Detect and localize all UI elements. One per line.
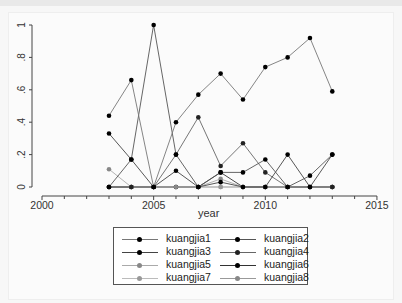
- data-point-marker: [263, 65, 268, 70]
- legend-label: kuangjia6: [264, 258, 309, 270]
- data-point-marker: [285, 152, 290, 157]
- series-line-kuangjia2: [109, 25, 332, 187]
- data-point-marker: [330, 89, 335, 94]
- legend-label: kuangjia5: [166, 258, 211, 270]
- x-tick-label: 2015: [365, 199, 389, 211]
- data-point-marker: [218, 71, 223, 76]
- data-point-marker: [107, 113, 112, 118]
- legend-label: kuangjia8: [264, 271, 309, 283]
- legend-line-icon: [122, 265, 158, 266]
- legend-label: kuangjia3: [166, 245, 211, 257]
- data-point-marker: [218, 185, 223, 190]
- y-tick-label: 1: [16, 22, 27, 28]
- data-point-marker: [129, 185, 134, 190]
- y-tick-label: .2: [16, 150, 27, 159]
- data-point-marker: [263, 157, 268, 162]
- legend-label: kuangjia4: [264, 245, 309, 257]
- data-point-marker: [107, 185, 112, 190]
- data-point-marker: [174, 152, 179, 157]
- data-point-marker: [107, 167, 112, 172]
- legend-line-icon: [220, 278, 256, 279]
- data-point-marker: [285, 55, 290, 60]
- data-point-marker: [241, 185, 246, 190]
- y-tick-label: .6: [16, 85, 27, 94]
- data-point-marker: [218, 170, 223, 175]
- legend-label: kuangjia7: [166, 271, 211, 283]
- data-point-marker: [241, 97, 246, 102]
- data-point-marker: [107, 131, 112, 136]
- y-tick-label: .8: [16, 53, 27, 62]
- series-line-kuangjia4: [109, 117, 332, 187]
- data-point-marker: [330, 185, 335, 190]
- data-point-marker: [174, 185, 179, 190]
- data-point-marker: [129, 157, 134, 162]
- data-point-marker: [196, 92, 201, 97]
- x-axis-label: year: [198, 207, 219, 219]
- legend-line-icon: [122, 252, 158, 253]
- data-point-marker: [218, 180, 223, 185]
- y-tick-label: 0: [16, 184, 27, 190]
- legend-line-icon: [122, 278, 158, 279]
- data-point-marker: [151, 185, 156, 190]
- legend-label: kuangjia1: [166, 232, 211, 244]
- x-tick-label: 2005: [142, 199, 166, 211]
- legend-line-icon: [220, 252, 256, 253]
- data-point-marker: [308, 185, 313, 190]
- data-point-marker: [308, 36, 313, 41]
- data-point-marker: [196, 185, 201, 190]
- legend-line-icon: [220, 239, 256, 240]
- data-point-marker: [285, 185, 290, 190]
- data-point-marker: [218, 164, 223, 169]
- data-point-marker: [129, 78, 134, 83]
- data-point-marker: [196, 115, 201, 120]
- data-point-marker: [174, 120, 179, 125]
- legend-line-icon: [220, 265, 256, 266]
- legend-line-icon: [122, 239, 158, 240]
- data-point-marker: [174, 169, 179, 174]
- legend: kuangjia1 kuangjia2 kuangjia3 kuangjia4 …: [113, 227, 308, 285]
- data-point-marker: [241, 170, 246, 175]
- y-tick-label: .4: [16, 118, 27, 127]
- data-point-marker: [308, 173, 313, 178]
- x-tick-label: 2000: [30, 199, 54, 211]
- x-tick-label: 2010: [254, 199, 278, 211]
- data-point-marker: [263, 170, 268, 175]
- data-point-marker: [263, 185, 268, 190]
- data-point-marker: [330, 152, 335, 157]
- data-point-marker: [241, 141, 246, 146]
- data-point-marker: [151, 23, 156, 28]
- legend-label: kuangjia2: [264, 232, 309, 244]
